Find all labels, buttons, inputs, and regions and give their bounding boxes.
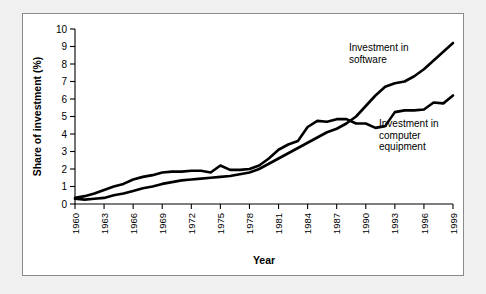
- y-tick-label: 2: [61, 164, 67, 175]
- x-tick-label: 1963: [99, 213, 110, 234]
- x-tick-label: 1987: [331, 213, 342, 234]
- annotation-line: Investment in: [379, 118, 438, 129]
- annotation-line: equipment: [379, 141, 426, 152]
- x-tick-label: 1960: [70, 213, 81, 234]
- y-tick-label: 4: [61, 129, 67, 140]
- line-chart: 0123456789101960196319661969197219751978…: [23, 14, 465, 277]
- annotation-computer-equipment: Investment incomputerequipment: [379, 118, 438, 152]
- x-tick-label: 1975: [215, 213, 226, 234]
- annotation-software: Investment insoftware: [349, 42, 408, 65]
- y-tick-label: 3: [61, 146, 67, 157]
- y-axis-title: Share of investment (%): [31, 57, 43, 177]
- chart-axes: [75, 29, 453, 204]
- x-axis-title: Year: [253, 254, 275, 266]
- x-tick-label: 1984: [302, 213, 313, 234]
- annotation-line: computer: [379, 130, 421, 141]
- annotation-line: Investment in: [349, 42, 408, 53]
- x-tick-label: 1996: [419, 213, 430, 234]
- x-tick-label: 1981: [273, 213, 284, 234]
- y-tick-label: 5: [61, 111, 67, 122]
- x-tick-label: 1990: [360, 213, 371, 234]
- y-tick-label: 1: [61, 181, 67, 192]
- y-tick-label: 9: [61, 41, 67, 52]
- y-tick-label: 7: [61, 76, 67, 87]
- y-tick-label: 6: [61, 94, 67, 105]
- x-tick-label: 1999: [448, 213, 459, 234]
- x-tick-label: 1966: [128, 213, 139, 234]
- x-tick-label: 1978: [244, 213, 255, 234]
- x-tick-label: 1993: [389, 213, 400, 234]
- y-tick-label: 8: [61, 59, 67, 70]
- y-tick-label: 10: [56, 24, 68, 35]
- x-tick-label: 1972: [186, 213, 197, 234]
- figure-panel: 0123456789101960196319661969197219751978…: [22, 13, 464, 276]
- annotation-line: software: [349, 54, 387, 65]
- x-tick-label: 1969: [157, 213, 168, 234]
- y-tick-label: 0: [61, 199, 67, 210]
